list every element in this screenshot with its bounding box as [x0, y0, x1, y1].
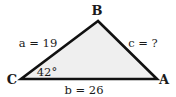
angle-label-c: 42°: [37, 65, 57, 79]
side-label-b: b = 26: [65, 83, 104, 97]
vertex-label-a: A: [158, 72, 170, 87]
side-label-a: a = 19: [19, 36, 57, 50]
vertex-label-c: C: [7, 72, 17, 87]
side-label-c: c = ?: [128, 36, 158, 50]
triangle-diagram: B C A a = 19 c = ? b = 26 42°: [0, 0, 176, 97]
vertex-label-b: B: [92, 3, 103, 18]
